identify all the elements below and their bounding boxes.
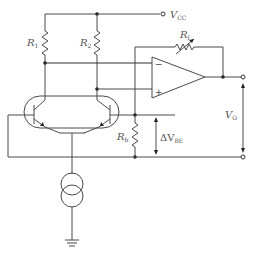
resistor-r1: [42, 14, 48, 96]
vcc-rail: [45, 12, 165, 16]
resistor-rb: [132, 113, 138, 159]
inverting-input-wire: [43, 61, 152, 65]
delta-vbe-label: ΔVBE: [160, 132, 183, 144]
output-node: [205, 75, 245, 79]
delta-vbe-arrow: [154, 117, 158, 155]
rf-label: Rf: [179, 29, 191, 41]
vo-arrow: [241, 83, 245, 153]
ground-icon: [65, 240, 79, 246]
opamp-plus-sign: +: [155, 87, 163, 97]
r1-label: R1: [26, 37, 38, 49]
ground-output-terminal: [241, 155, 245, 159]
transistor-pair: [8, 96, 175, 157]
circuit-diagram: VCC R1 R2 − + Rf: [0, 0, 254, 255]
output-terminal: [241, 75, 245, 79]
bottom-rail: [8, 155, 245, 159]
resistor-r2: [94, 14, 100, 96]
vo-label: VO: [225, 109, 237, 121]
rb-label: Rb: [116, 131, 129, 143]
opamp-minus-sign: −: [155, 59, 163, 69]
current-source: [61, 133, 83, 240]
vcc-label: VCC: [170, 9, 187, 21]
vcc-terminal: [161, 12, 165, 16]
r2-label: R2: [79, 37, 92, 49]
noninverting-input-wire: [95, 87, 152, 91]
